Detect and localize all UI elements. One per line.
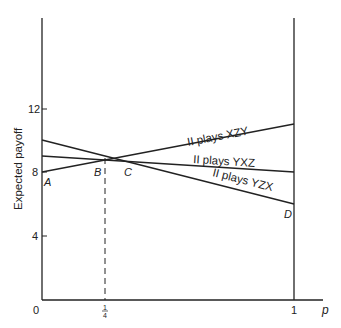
chart: 12 8 4 0 1 1 4 p Expected payoff II play… <box>0 0 341 328</box>
series-yzx <box>42 140 294 204</box>
x-tick-label-1: 1 <box>291 304 297 316</box>
y-tick-label-12: 12 <box>28 103 40 115</box>
y-tick-label-8: 8 <box>32 166 38 178</box>
point-label-a: A <box>43 176 51 188</box>
y-tick-label-4: 4 <box>32 230 38 242</box>
x-tick-label-0: 0 <box>33 304 39 316</box>
point-label-d: D <box>284 208 292 220</box>
point-label-c: C <box>124 166 132 178</box>
point-label-b: B <box>94 166 101 178</box>
x-tick-label-quarter-num: 1 <box>103 304 107 311</box>
x-tick-label-quarter-den: 4 <box>103 312 107 319</box>
y-axis-label: Expected payoff <box>12 127 24 210</box>
x-axis-label: p <box>321 303 329 317</box>
series-label-xzy: II plays XZY <box>186 124 249 147</box>
